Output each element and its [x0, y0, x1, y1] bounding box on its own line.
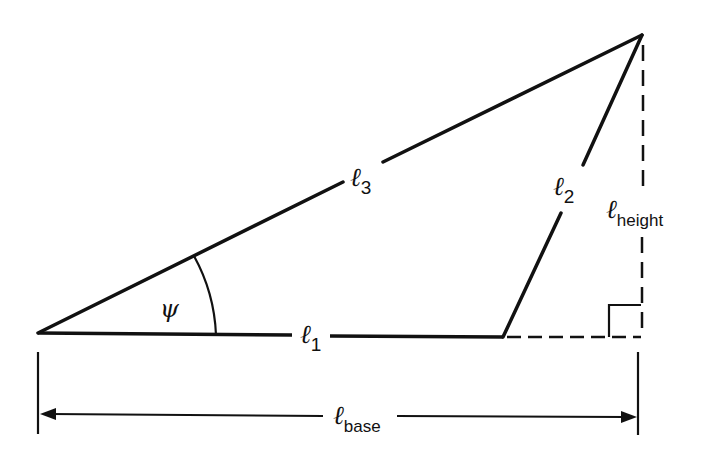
angle-arc [194, 256, 216, 335]
side-l2-upper [583, 35, 642, 165]
side-l3-upper [383, 35, 642, 162]
base-dim-line-right [397, 416, 626, 417]
label-l3: ℓ3 [350, 162, 371, 198]
label-height: ℓheight [606, 194, 663, 230]
triangle-diagram: ℓ3 ℓ1 ℓ2 ℓheight ℓbase ψ [0, 0, 704, 458]
label-angle-psi: ψ [160, 295, 180, 323]
base-dim-line-left [50, 414, 323, 416]
side-l2-lower [503, 213, 561, 337]
label-base: ℓbase [333, 400, 381, 436]
side-l1-left [38, 333, 292, 335]
label-l1: ℓ1 [300, 319, 321, 355]
arrowhead-right-icon [621, 411, 637, 423]
side-l3-lower [38, 182, 343, 333]
side-l1-right [330, 336, 503, 337]
right-angle-marker [609, 305, 641, 337]
label-l2: ℓ2 [553, 171, 574, 207]
arrowhead-left-icon [40, 408, 56, 420]
